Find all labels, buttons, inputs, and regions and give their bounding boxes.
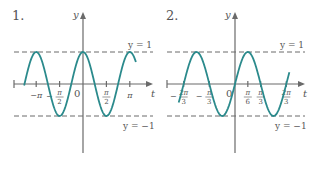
panel-label: 2. (166, 8, 178, 23)
tick-label: −π (30, 91, 43, 100)
tick-label-minus: − (170, 92, 177, 101)
tick-label: π (126, 91, 133, 100)
reference-line-label: y = 1 (127, 40, 152, 50)
tick-label-numerator: π (245, 89, 251, 97)
tick-label-minus: − (196, 92, 203, 101)
tick-label-numerator: π (56, 89, 62, 97)
reference-line-label: y = −1 (274, 121, 307, 131)
figure: 1.y = 1y = −1ty0−ππ2−π2π2.y = 1y = −1ty0… (0, 0, 315, 178)
x-axis-arrow-icon (298, 81, 305, 87)
reference-line-label: y = 1 (279, 40, 304, 50)
panel-label: 1. (12, 8, 24, 23)
x-axis-arrow-icon (146, 81, 153, 87)
tick-label-denominator: 6 (246, 98, 251, 106)
y-axis-arrow-icon (80, 12, 86, 19)
y-axis-arrow-icon (232, 12, 238, 19)
tick-label-denominator: 2 (57, 98, 61, 106)
y-axis-label: y (72, 9, 79, 20)
tick-label-denominator: 3 (181, 98, 185, 106)
reference-line-label: y = −1 (122, 121, 155, 131)
x-axis-label: t (151, 88, 156, 99)
panel-1: 1.y = 1y = −1ty0−ππ2−π2π (12, 8, 156, 153)
tick-label-denominator: 2 (104, 98, 108, 106)
tick-label-denominator: 3 (284, 98, 288, 106)
tick-label-denominator: 3 (207, 98, 211, 106)
tick-label-denominator: 3 (258, 98, 262, 106)
panel-2: 2.y = 1y = −1ty02π3−π3−π6π32π3 (166, 8, 308, 153)
y-axis-label: y (224, 9, 231, 20)
tick-label-numerator: π (103, 89, 109, 97)
origin-label: 0 (74, 88, 80, 99)
x-axis-label: t (303, 88, 308, 99)
